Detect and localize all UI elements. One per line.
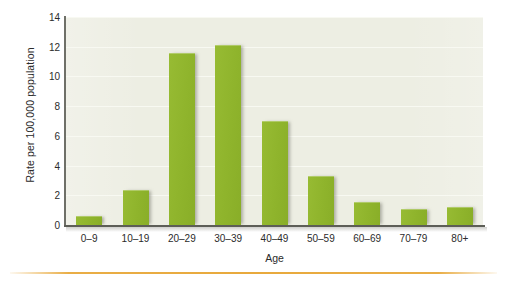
bar	[308, 176, 334, 225]
x-axis-tick-label: 30–39	[205, 233, 251, 244]
x-axis-line	[64, 225, 485, 227]
x-axis-tick-label: 10–19	[112, 233, 158, 244]
x-axis-tick-labels: 0–910–1920–2930–3940–4950–5960–6970–7980…	[66, 233, 483, 249]
bar-chart-figure: Rate per 100,000 population 02468101214 …	[0, 0, 505, 281]
y-axis-tick-label: 12	[38, 41, 60, 52]
bar-column	[76, 17, 102, 225]
bar	[401, 209, 427, 225]
x-axis-tick-label: 60–69	[344, 233, 390, 244]
bar-column	[123, 17, 149, 225]
bottom-divider-rule	[10, 272, 497, 274]
bar	[215, 45, 241, 225]
bar-column	[215, 17, 241, 225]
x-axis-tick-label: 50–59	[298, 233, 344, 244]
y-axis-title-text: Rate per 100,000 population	[24, 47, 36, 182]
x-axis-tick-label: 0–9	[66, 233, 112, 244]
bar-column	[262, 17, 288, 225]
x-axis-tick-label: 70–79	[390, 233, 436, 244]
y-axis-tick-label: 0	[38, 220, 60, 231]
bar-column	[308, 17, 334, 225]
bar	[76, 216, 102, 225]
bar-column	[447, 17, 473, 225]
bar	[262, 121, 288, 225]
bar	[354, 202, 380, 225]
x-axis-shadow	[66, 227, 487, 232]
x-axis-title: Age	[66, 252, 483, 264]
bar-column	[401, 17, 427, 225]
y-axis-tick-label: 10	[38, 71, 60, 82]
y-axis-tick-label: 14	[38, 12, 60, 23]
y-axis-line	[64, 16, 66, 226]
y-axis-tick-label: 2	[38, 190, 60, 201]
y-axis-tick-label: 8	[38, 101, 60, 112]
bar-column	[354, 17, 380, 225]
bar-series	[66, 17, 483, 225]
y-axis-tick-labels: 02468101214	[38, 0, 60, 281]
x-axis-tick-label: 40–49	[251, 233, 297, 244]
x-axis-tick-label: 20–29	[159, 233, 205, 244]
bar	[447, 207, 473, 225]
y-axis-tick-label: 4	[38, 160, 60, 171]
y-axis-tick-label: 6	[38, 130, 60, 141]
bar	[169, 53, 195, 225]
bar	[123, 190, 149, 225]
x-axis-tick-label: 80+	[437, 233, 483, 244]
bar-column	[169, 17, 195, 225]
